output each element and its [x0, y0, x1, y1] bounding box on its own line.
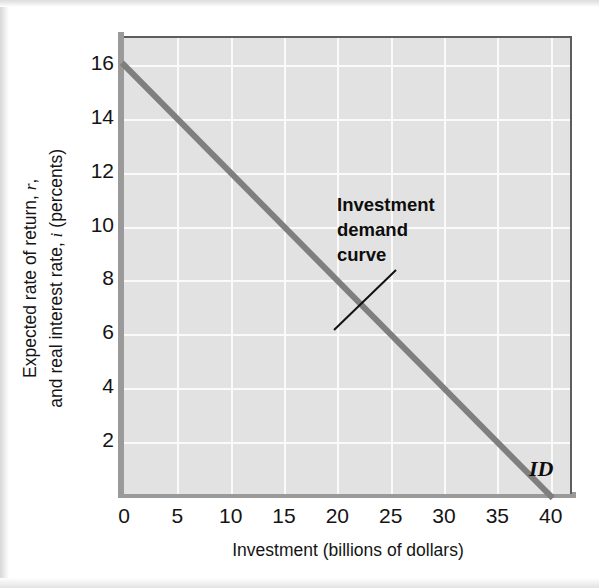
y-tick-label: 8 [74, 267, 114, 288]
y-axis-title-part-2: and real interest rate, [46, 237, 66, 407]
x-tick-label: 10 [207, 505, 255, 526]
y-axis-title-part-2-end: (percents) [46, 149, 66, 233]
y-tick-label: 2 [74, 429, 114, 450]
x-tick-label: 0 [100, 505, 148, 526]
x-tick-label: 40 [527, 505, 575, 526]
y-tick-label: 4 [74, 375, 114, 396]
y-axis-title-part-1: Expected rate of return, [20, 190, 40, 378]
x-tick-label: 5 [153, 505, 201, 526]
investment-demand-chart: 246810121416 0510152025303540 Expected r… [0, 0, 599, 588]
curve-label-id: ID [529, 456, 553, 482]
y-axis-variable-i: i [46, 233, 66, 238]
y-tick-label: 6 [74, 321, 114, 342]
x-tick-label: 20 [313, 505, 361, 526]
y-axis-ticks: 246810121416 [68, 0, 114, 588]
annotation-line-3: curve [337, 242, 435, 267]
x-axis-title: Investment (billions of dollars) [124, 540, 572, 561]
x-tick-label: 15 [260, 505, 308, 526]
y-axis-title: Expected rate of return, r, and real int… [17, 113, 70, 443]
y-axis-title-part-1-end: , [20, 179, 40, 184]
y-tick-label: 16 [74, 52, 114, 73]
page-edge-left [0, 0, 9, 588]
y-tick-label: 12 [74, 160, 114, 181]
x-tick-label: 30 [420, 505, 468, 526]
x-tick-label: 25 [367, 505, 415, 526]
annotation-line-2: demand [337, 217, 435, 242]
x-tick-label: 35 [473, 505, 521, 526]
annotation-line-1: Investment [337, 192, 435, 217]
curve-annotation: Investment demand curve [337, 192, 435, 267]
annotation-leader-line [330, 268, 400, 334]
x-axis-ticks: 0510152025303540 [124, 505, 572, 535]
y-tick-label: 10 [74, 214, 114, 235]
y-tick-label: 14 [74, 106, 114, 127]
y-axis-variable-r: r [20, 183, 40, 190]
